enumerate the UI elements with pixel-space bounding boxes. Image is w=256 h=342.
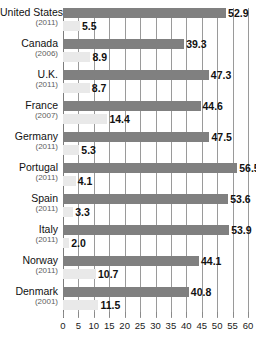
bar-upper-value: 47.3 [211,70,231,80]
bar-upper-value: 47.5 [211,132,231,142]
bar-rows: 52.95.539.38.947.38.744.614.447.55.356.5… [63,8,248,318]
bar-upper [63,194,228,204]
bar-group: 44.614.4 [63,101,248,132]
bar-chart: United States(2011)Canada(2006)U.K.(2011… [0,0,256,342]
bar-upper-value: 56.5 [239,163,256,173]
bar-upper-value: 40.8 [191,287,211,297]
x-tick-label: 45 [196,320,207,331]
category-label: Portugal(2011) [0,162,58,183]
x-tick-label: 20 [119,320,130,331]
x-axis: 051015202530354045505560 [63,318,248,334]
bar-lower-value: 11.5 [100,300,120,310]
x-tick-mark [217,312,218,317]
x-tick-label: 55 [227,320,238,331]
category-year: (2007) [0,111,58,121]
category-name: Denmark [0,286,58,297]
category-year: (2011) [0,173,58,183]
category-name: Germany [0,131,58,142]
category-axis: United States(2011)Canada(2006)U.K.(2011… [0,8,60,318]
category-year: (2011) [0,235,58,245]
x-tick-label: 40 [181,320,192,331]
category-label: Germany(2011) [0,131,58,152]
x-tick-label: 5 [76,320,81,331]
category-name: Norway [0,255,58,266]
bar-group: 53.92.0 [63,225,248,256]
category-year: (2011) [0,142,58,152]
bar-upper [63,70,209,80]
bar-lower-value: 2.0 [71,238,86,248]
bar-group: 52.95.5 [63,8,248,39]
bar-upper [63,39,184,49]
bar-lower-value: 5.3 [81,145,96,155]
bar-group: 56.54.1 [63,163,248,194]
bar-group: 39.38.9 [63,39,248,70]
bar-upper-value: 52.9 [228,8,248,18]
category-name: Italy [0,224,58,235]
x-tick-mark [233,312,234,317]
bar-upper [63,225,229,235]
bar-upper [63,256,199,266]
category-label: United States(2011) [0,7,58,28]
x-tick-mark [171,312,172,317]
category-name: France [0,100,58,111]
category-name: Canada [0,38,58,49]
bar-group: 47.55.3 [63,132,248,163]
bar-lower [63,207,73,217]
bar-lower [63,114,107,124]
category-label: France(2007) [0,100,58,121]
bar-group: 53.63.3 [63,194,248,225]
category-label: Spain(2011) [0,193,58,214]
category-year: (2001) [0,297,58,307]
x-tick-mark [186,312,187,317]
bar-lower [63,238,69,248]
bar-lower-value: 14.4 [109,114,129,124]
x-tick-mark [94,312,95,317]
bar-lower-value: 8.9 [92,52,107,62]
bar-lower-value: 4.1 [78,176,93,186]
x-tick-label: 0 [60,320,65,331]
bar-lower [63,176,76,186]
x-tick-mark [248,312,249,317]
bar-lower-value: 8.7 [92,83,107,93]
category-label: Norway(2011) [0,255,58,276]
x-tick-label: 35 [166,320,177,331]
category-label: Italy(2011) [0,224,58,245]
category-name: Spain [0,193,58,204]
bar-group: 47.38.7 [63,70,248,101]
category-name: U.K. [0,69,58,80]
category-label: Canada(2006) [0,38,58,59]
bar-upper-value: 53.6 [230,194,250,204]
category-year: (2011) [0,204,58,214]
bar-upper [63,101,201,111]
bar-upper [63,163,237,173]
bar-lower [63,21,80,31]
x-tick-mark [63,312,64,317]
x-tick-label: 10 [89,320,100,331]
bar-lower [63,300,98,310]
bar-lower [63,52,90,62]
bar-group: 44.110.7 [63,256,248,287]
category-name: United States [0,7,58,18]
bar-lower [63,83,90,93]
x-tick-mark [202,312,203,317]
bar-upper-value: 53.9 [231,225,251,235]
category-year: (2006) [0,49,58,59]
x-tick-mark [78,312,79,317]
category-year: (2011) [0,18,58,28]
bar-upper-value: 39.3 [186,39,206,49]
category-label: Denmark(2001) [0,286,58,307]
bar-lower [63,145,79,155]
bar-upper [63,287,189,297]
category-label: U.K.(2011) [0,69,58,90]
bar-upper-value: 44.6 [203,101,223,111]
x-tick-label: 60 [243,320,254,331]
category-name: Portugal [0,162,58,173]
category-year: (2011) [0,80,58,90]
x-tick-mark [125,312,126,317]
plot-area: 52.95.539.38.947.38.744.614.447.55.356.5… [63,8,248,318]
x-tick-label: 30 [150,320,161,331]
bar-lower-value: 10.7 [98,269,118,279]
bar-upper-value: 44.1 [201,256,221,266]
x-tick-mark [109,312,110,317]
bar-lower-value: 5.5 [82,21,97,31]
